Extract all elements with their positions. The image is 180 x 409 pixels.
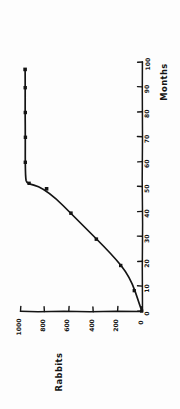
data-point [119, 264, 122, 267]
months-tick-label: 20 [143, 259, 150, 267]
months-tick-labels: 0 10 20 30 40 50 60 70 80 90 100 [143, 58, 152, 316]
months-tick-label: 70 [143, 135, 150, 143]
data-point [27, 182, 30, 185]
data-point [23, 68, 27, 72]
data-point [24, 136, 27, 139]
rabbits-tick-label: 1000 [15, 319, 22, 336]
months-axis-title: Months [159, 63, 169, 100]
months-tick-label: 40 [143, 209, 150, 217]
data-point [133, 289, 136, 292]
months-tick-label: 90 [143, 85, 150, 93]
rabbits-tick-label: 400 [88, 319, 95, 332]
rabbits-tick-label: 200 [112, 319, 119, 332]
rabbits-axis: 0 200 400 600 800 1000 Rabbits [15, 306, 144, 391]
months-tick-label: 30 [143, 234, 150, 242]
rabbits-tick-labels: 0 200 400 600 800 1000 [15, 319, 144, 336]
chart-canvas: 0 10 20 30 40 50 60 70 80 90 100 Months [0, 0, 180, 409]
data-point [140, 309, 143, 312]
rabbits-axis-title: Rabbits [54, 353, 64, 392]
months-tick-label: 50 [143, 185, 150, 193]
rabbits-tick-label: 600 [63, 319, 70, 332]
months-tick-label: 100 [144, 58, 151, 71]
months-tick-label: 60 [143, 159, 150, 167]
months-axis: 0 10 20 30 40 50 60 70 80 90 100 Months [137, 58, 169, 316]
months-tick-label: 10 [143, 284, 150, 292]
data-point [24, 86, 27, 89]
rabbits-tick-label: 0 [137, 320, 144, 324]
data-point-markers [23, 68, 143, 313]
data-point [24, 111, 27, 114]
data-point [95, 237, 99, 241]
rabbits-tick-label: 800 [39, 319, 46, 332]
rabbit-population-curve [23, 68, 143, 313]
data-point [45, 187, 49, 191]
growth-curve-figure: 0 10 20 30 40 50 60 70 80 90 100 Months [0, 0, 180, 409]
months-tick-label: 80 [143, 110, 150, 118]
data-point [24, 161, 27, 164]
months-tick-label: 0 [143, 311, 150, 315]
data-point [69, 211, 73, 215]
